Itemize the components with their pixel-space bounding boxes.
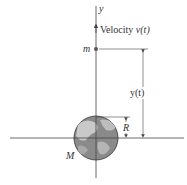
mass-large-label: M bbox=[65, 150, 75, 161]
mass-point bbox=[94, 47, 98, 51]
mass-small-label: m bbox=[83, 43, 90, 54]
height-label: y(t) bbox=[130, 87, 144, 99]
velocity-label: Velocity v(t) bbox=[100, 24, 150, 36]
earth-projectile-diagram: y Velocity v(t) m y(t) R M bbox=[0, 0, 187, 185]
y-axis-label: y bbox=[98, 3, 104, 14]
radius-label: R bbox=[122, 122, 129, 133]
